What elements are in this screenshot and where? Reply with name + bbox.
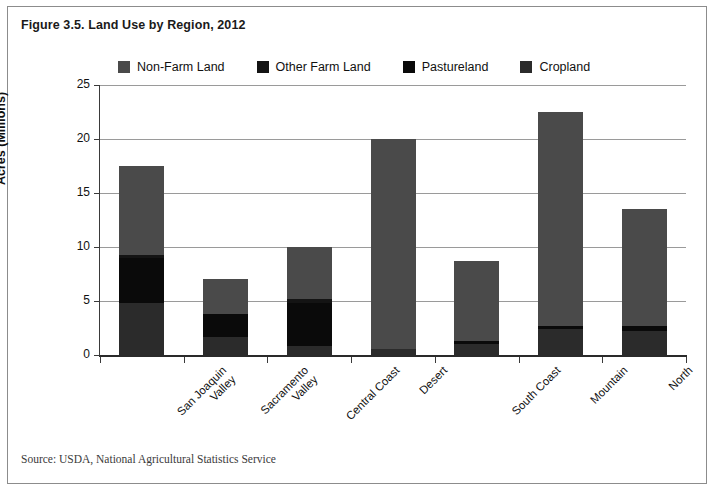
bar-segment-pastureland xyxy=(538,326,583,329)
y-tick-label: 15 xyxy=(66,185,90,199)
bar-segment-cropland xyxy=(119,303,164,355)
bar-segment-pastureland xyxy=(203,314,248,337)
bar-segment-non-farm-land xyxy=(454,261,499,341)
bar-north[interactable] xyxy=(622,85,667,355)
bar-south-coast[interactable] xyxy=(454,85,499,355)
x-tick-mark xyxy=(435,357,436,363)
bar-sacramento-valley[interactable] xyxy=(203,85,248,355)
y-tick-mark xyxy=(94,355,100,356)
bar-central-coast[interactable] xyxy=(287,85,332,355)
legend-swatch-icon xyxy=(520,61,532,73)
legend-item-non-farm-land[interactable]: Non-Farm Land xyxy=(118,60,225,74)
x-tick-mark xyxy=(351,357,352,363)
x-tick-mark xyxy=(686,357,687,363)
legend-item-pastureland[interactable]: Pastureland xyxy=(403,60,489,74)
y-tick-label: 0 xyxy=(66,347,90,361)
figure-source: Source: USDA, National Agricultural Stat… xyxy=(21,453,276,465)
bar-segment-cropland xyxy=(538,329,583,355)
legend-swatch-icon xyxy=(118,61,130,73)
bar-segment-cropland xyxy=(454,344,499,355)
legend-swatch-icon xyxy=(257,61,269,73)
plot-area xyxy=(100,85,686,355)
bar-desert[interactable] xyxy=(371,85,416,355)
bar-segment-non-farm-land xyxy=(622,209,667,326)
y-tick-label: 25 xyxy=(66,77,90,91)
y-tick-label: 5 xyxy=(66,293,90,307)
y-tick-label: 20 xyxy=(66,131,90,145)
legend-label: Other Farm Land xyxy=(276,60,371,74)
figure-title: Figure 3.5. Land Use by Region, 2012 xyxy=(21,18,246,32)
legend-label: Cropland xyxy=(539,60,590,74)
bar-segment-pastureland xyxy=(454,341,499,344)
x-tick-mark xyxy=(519,357,520,363)
bar-segment-non-farm-land xyxy=(371,139,416,349)
bar-segment-pastureland xyxy=(119,258,164,303)
bar-mountain[interactable] xyxy=(538,85,583,355)
figure-container: Figure 3.5. Land Use by Region, 2012 Non… xyxy=(0,0,715,496)
bar-segment-other-farm-land xyxy=(287,299,332,303)
bar-segment-other-farm-land xyxy=(119,255,164,258)
legend-label: Pastureland xyxy=(422,60,489,74)
bar-segment-non-farm-land xyxy=(538,112,583,326)
y-tick-label: 10 xyxy=(66,239,90,253)
legend-item-other-farm-land[interactable]: Other Farm Land xyxy=(257,60,371,74)
bar-segment-cropland xyxy=(203,337,248,355)
legend-item-cropland[interactable]: Cropland xyxy=(520,60,590,74)
chart-legend: Non-Farm LandOther Farm LandPasturelandC… xyxy=(118,59,622,75)
bar-segment-pastureland xyxy=(287,303,332,346)
bar-san-joaquin-valley[interactable] xyxy=(119,85,164,355)
bar-segment-pastureland xyxy=(622,326,667,331)
bar-segment-cropland xyxy=(371,349,416,355)
x-axis-line xyxy=(99,355,687,357)
bar-segment-cropland xyxy=(287,346,332,355)
bar-segment-non-farm-land xyxy=(119,166,164,255)
legend-swatch-icon xyxy=(403,61,415,73)
x-tick-mark xyxy=(602,357,603,363)
x-tick-mark xyxy=(184,357,185,363)
x-tick-mark xyxy=(100,357,101,363)
legend-label: Non-Farm Land xyxy=(137,60,225,74)
bar-segment-non-farm-land xyxy=(287,247,332,299)
bar-segment-non-farm-land xyxy=(203,279,248,314)
y-axis-title: Acres (Millions) xyxy=(0,92,8,185)
bar-segment-cropland xyxy=(622,331,667,355)
x-tick-mark xyxy=(267,357,268,363)
